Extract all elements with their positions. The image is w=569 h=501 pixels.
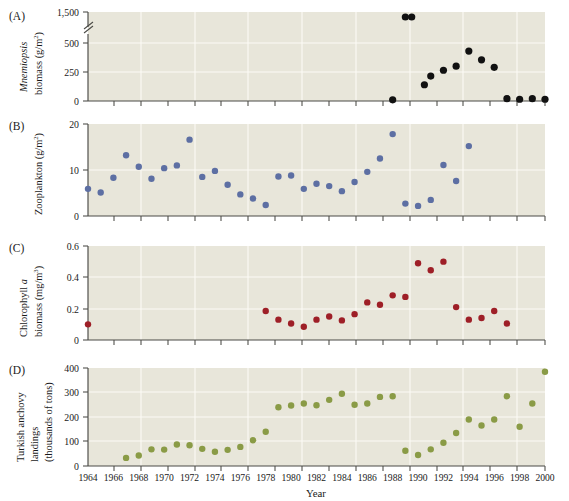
data-point <box>288 172 294 178</box>
panel-b-letter: (B) <box>9 120 25 133</box>
data-point <box>542 368 548 374</box>
x-tick-1980: 1980 <box>282 472 301 483</box>
data-point <box>263 308 269 314</box>
data-point <box>440 67 447 74</box>
data-point <box>504 393 510 399</box>
data-point <box>97 189 103 195</box>
data-point <box>339 188 345 194</box>
panel-c-ytick-0: 0 <box>74 335 79 346</box>
data-point <box>136 452 142 458</box>
data-point <box>364 169 370 175</box>
x-tick-1964: 1964 <box>78 472 97 483</box>
data-point <box>313 402 319 408</box>
data-point <box>504 320 510 326</box>
x-tick-1974: 1974 <box>205 472 224 483</box>
data-point <box>466 316 472 322</box>
data-point <box>263 429 269 435</box>
data-point <box>136 164 142 170</box>
data-point <box>453 63 460 70</box>
data-point <box>212 449 218 455</box>
data-point <box>174 441 180 447</box>
data-point <box>237 444 243 450</box>
data-point <box>301 323 307 329</box>
panel-b-ytick-10: 10 <box>69 165 79 176</box>
data-point <box>351 402 357 408</box>
data-point <box>408 13 415 20</box>
data-point <box>148 446 154 452</box>
data-point <box>389 96 396 103</box>
data-point <box>389 131 395 137</box>
panel-a-ytick-0: 0 <box>74 96 79 107</box>
data-point <box>402 448 408 454</box>
data-point <box>478 315 484 321</box>
data-point <box>275 316 281 322</box>
panel-c-ytick-04: 0.4 <box>67 272 79 283</box>
data-point <box>288 402 294 408</box>
panel-a-plot-background <box>88 12 545 101</box>
data-point <box>377 394 383 400</box>
data-point <box>529 400 535 406</box>
panel-c-ytick-06: 0.6 <box>67 241 79 252</box>
data-point <box>237 191 243 197</box>
panel-b-ytick-0: 0 <box>74 211 79 222</box>
panel-d-ytick-100: 100 <box>64 436 79 447</box>
panel-a-title-line2: biomass (g/m2) <box>32 32 45 95</box>
data-point <box>186 442 192 448</box>
data-point <box>466 143 472 149</box>
x-tick-1982: 1982 <box>307 472 326 483</box>
data-point <box>351 311 357 317</box>
data-point <box>326 183 332 189</box>
panel-d-ytick-0: 0 <box>74 461 79 472</box>
panel-d-title-line2: landings <box>29 427 40 462</box>
x-tick-1998: 1998 <box>510 472 529 483</box>
data-point <box>415 260 421 266</box>
data-point <box>428 446 434 452</box>
x-tick-1968: 1968 <box>129 472 148 483</box>
panel-c-ytick-02: 0.2 <box>67 304 79 315</box>
data-point <box>199 174 205 180</box>
data-point <box>377 155 383 161</box>
panel-a-ytick-250: 250 <box>64 67 79 78</box>
data-point <box>301 400 307 406</box>
data-point <box>415 452 421 458</box>
panel-b-ytick-20: 20 <box>69 119 79 130</box>
data-point <box>389 393 395 399</box>
data-point <box>364 400 370 406</box>
data-point <box>148 176 154 182</box>
panel-d-ytick-200: 200 <box>64 412 79 423</box>
panel-d-title-line1: Turkish anchovy <box>15 391 26 462</box>
x-axis-title: Year <box>306 487 326 499</box>
data-point <box>275 404 281 410</box>
data-point <box>250 437 256 443</box>
data-point <box>326 397 332 403</box>
panel-d-ytick-300: 300 <box>64 387 79 398</box>
panel-b-axis-title: Zooplankton (g/m2) <box>32 133 45 215</box>
data-point <box>491 308 497 314</box>
data-point <box>110 175 116 181</box>
data-point <box>428 197 434 203</box>
data-point <box>453 304 459 310</box>
x-tick-1990: 1990 <box>408 472 427 483</box>
data-point <box>427 72 434 79</box>
panel-c-letter: (C) <box>9 242 25 255</box>
data-point <box>224 447 230 453</box>
data-point <box>516 424 522 430</box>
data-point <box>123 152 129 158</box>
panel-d: (D) <box>9 363 548 472</box>
x-tick-1976: 1976 <box>231 472 250 483</box>
data-point <box>529 95 536 102</box>
data-point <box>440 440 446 446</box>
panel-a-ytick-500: 500 <box>64 38 79 49</box>
data-point <box>377 302 383 308</box>
x-tick-1996: 1996 <box>485 472 504 483</box>
data-point <box>402 200 408 206</box>
data-point <box>301 186 307 192</box>
x-tick-1970: 1970 <box>155 472 174 483</box>
data-point <box>161 446 167 452</box>
x-tick-1986: 1986 <box>358 472 377 483</box>
data-point <box>491 416 497 422</box>
data-point <box>453 430 459 436</box>
data-point <box>186 136 192 142</box>
data-point <box>478 56 485 63</box>
panel-c: (C) <box>9 241 545 346</box>
